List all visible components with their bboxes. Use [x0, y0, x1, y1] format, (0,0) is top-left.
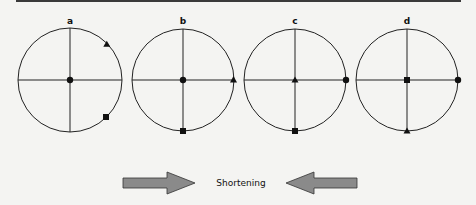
- panel-label-c: c: [292, 16, 297, 26]
- panel-d: d: [356, 16, 461, 134]
- triangle-marker: [230, 76, 237, 83]
- panel-label-a: a: [67, 16, 73, 26]
- triangle-marker: [103, 41, 110, 47]
- right-arrow-icon: [123, 172, 195, 194]
- panel-b: b: [132, 16, 237, 134]
- dot-marker: [67, 77, 73, 83]
- square-marker: [180, 128, 186, 134]
- square-marker: [404, 77, 410, 83]
- caption-shortening: Shortening: [216, 178, 265, 188]
- dot-marker: [343, 77, 349, 83]
- square-marker: [292, 128, 298, 134]
- dot-marker: [180, 77, 186, 83]
- panel-label-b: b: [180, 16, 187, 26]
- panel-a: a: [18, 16, 122, 132]
- panel-c: c: [244, 16, 349, 134]
- panel-label-d: d: [404, 16, 410, 26]
- dot-marker: [455, 77, 461, 83]
- left-arrow-icon: [286, 172, 357, 194]
- square-marker: [103, 114, 109, 120]
- diagram: a b c d Shortening: [0, 0, 476, 205]
